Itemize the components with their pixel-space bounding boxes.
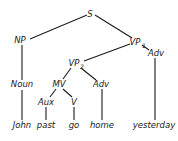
node-mv-label: MV <box>52 79 66 89</box>
leaf-home-label: home <box>90 120 114 130</box>
leaf-past-label: past <box>36 120 56 130</box>
edge-mv-v <box>63 89 72 97</box>
node-vp1-label: VP <box>130 37 142 47</box>
edge-vp2-mv <box>63 68 71 79</box>
edge-s-np <box>30 15 87 39</box>
node-noun-label: Noun <box>11 79 33 89</box>
node-vp2-label: VP <box>69 58 81 68</box>
leaf-go-label: go <box>69 120 80 130</box>
leaf-john: John <box>11 120 31 130</box>
leaf-yesterday: yesterday <box>132 120 176 130</box>
node-mv: MV <box>52 79 66 89</box>
edge-s-vp1 <box>95 15 132 38</box>
node-aux: Aux <box>37 97 55 107</box>
node-v: V <box>71 97 78 107</box>
node-adv-mid-label: Adv <box>92 79 110 89</box>
node-noun: Noun <box>11 79 33 89</box>
leaf-home: home <box>90 120 114 130</box>
leaf-go: go <box>69 120 80 130</box>
node-vp1: VP 1 <box>130 37 146 49</box>
node-vp1-subscript: 1 <box>142 42 146 49</box>
leaf-yesterday-label: yesterday <box>132 120 176 130</box>
node-v-label: V <box>71 97 78 107</box>
node-s-label: S <box>87 9 93 19</box>
syntax-tree: S NP VP 1 Adv VP 2 Noun MV Adv Aux V Joh… <box>0 0 178 141</box>
node-np-label: NP <box>14 35 26 45</box>
node-adv-top: Adv <box>147 48 165 58</box>
leaf-john-label: John <box>11 120 31 130</box>
node-s: S <box>87 9 93 19</box>
node-adv-mid: Adv <box>92 79 110 89</box>
node-adv-top-label: Adv <box>147 48 165 58</box>
edge-mv-aux <box>50 89 56 97</box>
leaf-past: past <box>36 120 56 130</box>
node-vp2-subscript: 2 <box>80 63 84 70</box>
node-np: NP <box>14 35 26 45</box>
node-aux-label: Aux <box>37 97 55 107</box>
edge-vp1-vp2 <box>84 44 130 61</box>
